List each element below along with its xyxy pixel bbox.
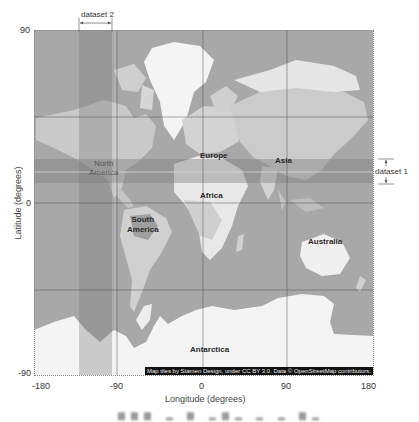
label-africa: Africa — [200, 191, 223, 200]
x-tick-neg180: -180 — [32, 381, 50, 391]
dataset-1-label: dataset 1 — [375, 167, 408, 176]
dataset-2-band — [79, 30, 112, 375]
label-asia: Asia — [275, 156, 292, 165]
label-europe: Europe — [200, 151, 228, 160]
label-north-america-line1: North — [89, 159, 118, 168]
label-north-america: North America — [89, 159, 118, 177]
x-tick-neg90: -90 — [110, 381, 123, 391]
x-axis-label: Longitude (degrees) — [165, 394, 246, 404]
label-north-america-line2: America — [89, 168, 118, 177]
y-axis-label: Latitude (degrees) — [13, 153, 23, 253]
label-australia: Australia — [308, 237, 342, 246]
y-tick-90: 90 — [20, 25, 30, 35]
label-south-america: South America — [127, 215, 159, 235]
label-antarctica: Antarctica — [190, 345, 229, 354]
x-tick-90: 90 — [281, 381, 291, 391]
label-south-america-line2: America — [127, 225, 159, 235]
dataset-2-range-arrow-icon — [77, 18, 115, 32]
dataset-1-band — [34, 159, 373, 183]
map-plot-area: North America South America Europe Afric… — [34, 30, 373, 375]
x-tick-0: 0 — [199, 381, 204, 391]
world-map-graphic — [34, 30, 373, 375]
label-south-america-line1: South — [127, 215, 159, 225]
map-attribution[interactable]: Map tiles by Stamen Design, under CC BY … — [145, 367, 373, 375]
y-tick-0: 0 — [26, 198, 31, 208]
figure-caption-blurred: ▆▆▆ ▂ ▆ ▂▆▂ ▂ ▂ ▆▂ — [118, 410, 325, 420]
x-tick-180: 180 — [361, 381, 376, 391]
y-tick-neg90: -90 — [18, 368, 31, 378]
